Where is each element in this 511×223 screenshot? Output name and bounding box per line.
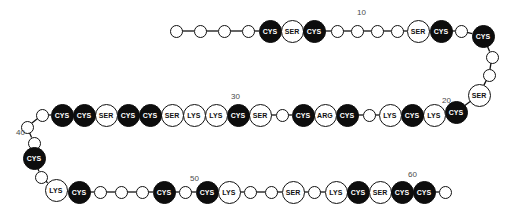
residue-label: SER xyxy=(99,112,114,119)
residue-24-cys[interactable]: CYS xyxy=(336,104,359,127)
residue-label: CYS xyxy=(449,109,464,116)
residue-label: LYS xyxy=(187,112,200,119)
residue-18-ser[interactable]: SER xyxy=(468,84,491,107)
residue-15-cys[interactable]: CYS xyxy=(472,25,495,48)
residue-41-cys[interactable]: CYS xyxy=(23,147,46,170)
residue-label: LYS xyxy=(222,189,235,196)
residue-11-unlabeled[interactable] xyxy=(391,25,404,38)
residue-31-lys[interactable]: LYS xyxy=(183,104,206,127)
residue-56-lys[interactable]: LYS xyxy=(325,181,348,204)
residue-label: CYS xyxy=(231,112,246,119)
residue-43-lys[interactable]: LYS xyxy=(45,179,68,202)
residue-53-unlabeled[interactable] xyxy=(265,186,278,199)
residue-38-unlabeled[interactable] xyxy=(36,109,49,122)
residue-label: CYS xyxy=(77,112,92,119)
residue-label: CYS xyxy=(434,28,449,35)
residue-label: CYS xyxy=(417,189,432,196)
position-label-60: 60 xyxy=(408,170,417,179)
residue-label: SER xyxy=(411,28,426,35)
residue-51-lys[interactable]: LYS xyxy=(218,181,241,204)
residue-34-cys[interactable]: CYS xyxy=(117,104,140,127)
residue-42-unlabeled[interactable] xyxy=(35,171,48,184)
residue-45-unlabeled[interactable] xyxy=(94,186,107,199)
residue-33-cys[interactable]: CYS xyxy=(139,104,162,127)
residue-50-cys[interactable]: CYS xyxy=(196,181,219,204)
position-label-30: 30 xyxy=(231,92,240,101)
residue-2-unlabeled[interactable] xyxy=(194,25,207,38)
residue-label: CYS xyxy=(263,28,278,35)
residue-47-unlabeled[interactable] xyxy=(136,186,149,199)
residue-label: CYS xyxy=(27,155,42,162)
residue-label: SER xyxy=(285,28,300,35)
residue-25-arg[interactable]: ARG xyxy=(314,104,337,127)
residue-52-unlabeled[interactable] xyxy=(244,186,257,199)
residue-label: LYS xyxy=(49,187,62,194)
residue-61-unlabeled[interactable] xyxy=(439,186,452,199)
residue-5-cys[interactable]: CYS xyxy=(259,20,282,43)
residue-label: CYS xyxy=(351,189,366,196)
residue-8-unlabeled[interactable] xyxy=(331,25,344,38)
residue-label: CYS xyxy=(143,112,158,119)
residue-label: CYS xyxy=(296,112,311,119)
residue-13-cys[interactable]: CYS xyxy=(430,20,453,43)
position-label-20: 20 xyxy=(442,96,451,105)
residue-7-cys[interactable]: CYS xyxy=(303,20,326,43)
residue-29-cys[interactable]: CYS xyxy=(227,104,250,127)
residue-9-unlabeled[interactable] xyxy=(351,25,364,38)
position-label-40: 40 xyxy=(16,128,25,137)
residue-label: LYS xyxy=(329,189,342,196)
residue-22-lys[interactable]: LYS xyxy=(379,104,402,127)
residue-label: SER xyxy=(253,112,268,119)
protein-sequence-diagram: CYSSERCYSSERCYSCYSSERCYSLYSCYSLYSCYSARGC… xyxy=(0,0,511,223)
residue-57-cys[interactable]: CYS xyxy=(347,181,370,204)
residue-20-lys[interactable]: LYS xyxy=(423,104,446,127)
residue-4-unlabeled[interactable] xyxy=(242,25,255,38)
residue-30-lys[interactable]: LYS xyxy=(205,104,228,127)
residue-59-cys[interactable]: CYS xyxy=(391,181,414,204)
residue-label: CYS xyxy=(157,189,172,196)
position-label-10: 10 xyxy=(357,8,366,17)
residue-1-unlabeled[interactable] xyxy=(170,25,183,38)
residue-label: CYS xyxy=(55,112,70,119)
residue-60-cys[interactable]: CYS xyxy=(413,181,436,204)
residue-label: SER xyxy=(286,189,301,196)
residue-21-cys[interactable]: CYS xyxy=(401,104,424,127)
residue-58-ser[interactable]: SER xyxy=(369,181,392,204)
residue-49-unlabeled[interactable] xyxy=(179,186,192,199)
residue-label: CYS xyxy=(405,112,420,119)
residue-14-unlabeled[interactable] xyxy=(455,25,468,38)
residue-32-ser[interactable]: SER xyxy=(161,104,184,127)
residue-3-unlabeled[interactable] xyxy=(218,25,231,38)
residue-36-cys[interactable]: CYS xyxy=(73,104,96,127)
residue-54-ser[interactable]: SER xyxy=(282,181,305,204)
residue-label: CYS xyxy=(200,189,215,196)
residue-label: ARG xyxy=(317,112,333,119)
residue-label: CYS xyxy=(340,112,355,119)
residue-27-unlabeled[interactable] xyxy=(276,109,289,122)
residue-37-cys[interactable]: CYS xyxy=(51,104,74,127)
position-label-50: 50 xyxy=(190,174,199,183)
residue-55-unlabeled[interactable] xyxy=(308,186,321,199)
residue-label: LYS xyxy=(209,112,222,119)
residue-10-unlabeled[interactable] xyxy=(371,25,384,38)
residue-48-cys[interactable]: CYS xyxy=(153,181,176,204)
residue-label: SER xyxy=(472,92,487,99)
residue-label: SER xyxy=(373,189,388,196)
residue-23-unlabeled[interactable] xyxy=(363,109,376,122)
residue-17-unlabeled[interactable] xyxy=(483,69,496,82)
residue-label: LYS xyxy=(427,112,440,119)
residue-16-unlabeled[interactable] xyxy=(486,51,499,64)
residue-46-unlabeled[interactable] xyxy=(115,186,128,199)
residue-26-cys[interactable]: CYS xyxy=(292,104,315,127)
residue-28-ser[interactable]: SER xyxy=(249,104,272,127)
residue-12-ser[interactable]: SER xyxy=(407,20,430,43)
residue-6-ser[interactable]: SER xyxy=(281,20,304,43)
residue-label: LYS xyxy=(383,112,396,119)
residue-label: CYS xyxy=(121,112,136,119)
residue-44-cys[interactable]: CYS xyxy=(68,181,91,204)
residue-label: CYS xyxy=(476,33,491,40)
residue-35-ser[interactable]: SER xyxy=(95,104,118,127)
residue-label: CYS xyxy=(72,189,87,196)
residue-label: SER xyxy=(165,112,180,119)
residue-label: CYS xyxy=(395,189,410,196)
